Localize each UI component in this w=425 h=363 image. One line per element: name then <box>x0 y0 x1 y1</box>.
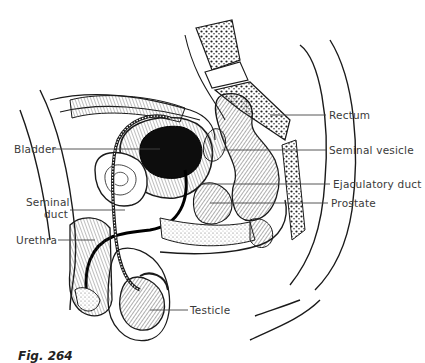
label-seminal-duct-line2: duct <box>26 208 68 220</box>
label-ejaculatory-duct: Ejaculatory duct <box>333 178 422 190</box>
label-testicle: Testicle <box>190 304 230 316</box>
prostate <box>193 183 232 224</box>
penis <box>70 218 113 316</box>
label-rectum: Rectum <box>329 109 370 121</box>
figure-caption: Fig. 264 <box>18 349 73 363</box>
anal-sphincter <box>250 219 273 248</box>
testicle <box>120 277 165 330</box>
pubic-bone <box>95 153 147 206</box>
label-seminal-duct-line1: Seminal <box>26 196 68 208</box>
scrotum <box>108 248 170 340</box>
label-seminal-vesicle: Seminal vesicle <box>329 144 414 156</box>
label-prostate: Prostate <box>331 197 376 209</box>
label-urethra: Urethra <box>16 234 57 246</box>
label-bladder: Bladder <box>14 143 56 155</box>
